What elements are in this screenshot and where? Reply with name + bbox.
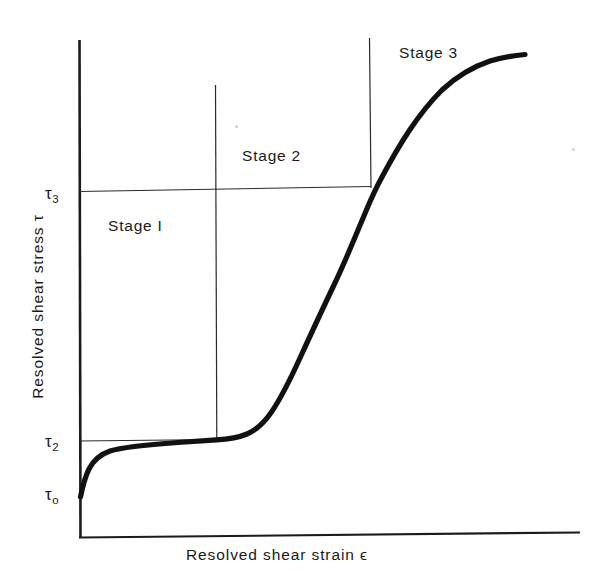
y-axis-title-text: Resolved shear stress bbox=[29, 227, 46, 399]
scan-speck bbox=[235, 125, 238, 128]
scan-speck bbox=[572, 148, 575, 151]
y-tick-label-tau2: τ2 bbox=[45, 432, 59, 453]
x-axis-title: Resolved shear strain ϵ bbox=[186, 546, 368, 564]
stage-3-label: Stage 3 bbox=[399, 44, 458, 62]
x-axis-line bbox=[79, 533, 580, 538]
tau3-reference-line bbox=[79, 187, 371, 192]
stage1-stage2-divider bbox=[216, 85, 217, 440]
stress-strain-plot bbox=[0, 0, 611, 577]
stress-strain-curve bbox=[81, 55, 526, 498]
y-axis-title: Resolved shear stress τ bbox=[29, 215, 47, 399]
y-tick-label-tau3: τ3 bbox=[45, 184, 59, 205]
stage-2-label: Stage 2 bbox=[242, 147, 301, 165]
y-axis-title-symbol: τ bbox=[29, 215, 46, 221]
stage-1-label: Stage I bbox=[108, 217, 163, 235]
y-axis-line bbox=[80, 40, 81, 538]
y-tick-label-tau0: τo bbox=[45, 485, 59, 506]
stage2-stage3-divider bbox=[370, 38, 372, 188]
figure-container: τ3 τ2 τo Stage I Stage 2 Stage 3 Resolve… bbox=[0, 0, 611, 577]
